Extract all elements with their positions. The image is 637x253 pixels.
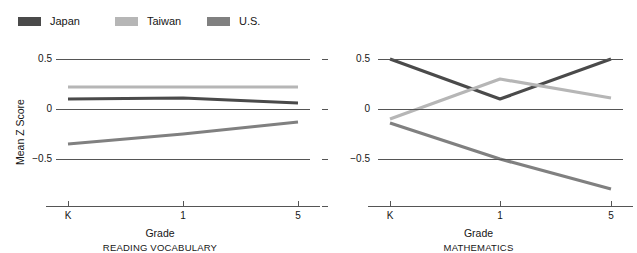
x-axis-tick-label: 1	[171, 211, 195, 221]
x-axis-tick-label: 5	[599, 211, 623, 221]
panel-caption-math: MATHEMATICS	[320, 242, 637, 253]
legend-label: Japan	[50, 16, 80, 27]
gridline	[378, 59, 623, 60]
x-axis-tick-mark	[298, 201, 299, 207]
y-axis-tick-mark	[322, 59, 328, 60]
y-axis-tick-label: −0.5	[350, 154, 370, 164]
legend-item-us: U.S.	[207, 12, 260, 30]
plot-area-math	[378, 34, 623, 184]
y-axis-tick-mark	[322, 109, 328, 110]
y-axis-tick-label: 0	[46, 104, 52, 114]
x-axis-tick-mark	[68, 201, 69, 207]
x-axis-tick-label: 5	[286, 211, 310, 221]
x-axis-tick-label: 1	[488, 211, 512, 221]
panel-mathematics: 0.50−0.5 K15 Grade MATHEMATICS	[320, 34, 637, 245]
gridline	[56, 109, 310, 110]
y-axis-tick-label: 0.5	[38, 54, 52, 64]
series-line-japan	[68, 98, 298, 103]
x-axis-tick-mark	[390, 201, 391, 207]
chart-legend: JapanTaiwanU.S.	[0, 12, 637, 30]
gridline	[378, 109, 623, 110]
y-axis-tick-label: 0.5	[356, 54, 370, 64]
x-axis-tick-mark	[183, 201, 184, 207]
series-line-us	[390, 123, 611, 189]
legend-item-taiwan: Taiwan	[115, 12, 181, 30]
gridline	[56, 59, 310, 60]
x-axis-tick-label: K	[378, 211, 402, 221]
legend-swatch-icon	[115, 17, 138, 26]
series-line-us	[68, 122, 298, 144]
x-axis-title-math: Grade	[320, 227, 637, 239]
legend-swatch-icon	[207, 17, 230, 26]
y-axis-tick-mark	[322, 206, 328, 207]
legend-item-japan: Japan	[18, 12, 80, 30]
x-axis-tick-label: K	[56, 211, 80, 221]
y-axis-tick-label: 0	[364, 104, 370, 114]
gridline	[56, 159, 310, 160]
y-axis-tick-labels-reading: 0.50−0.5	[22, 34, 52, 184]
y-axis-tick-mark	[322, 159, 328, 160]
y-axis-tick-label: −0.5	[32, 154, 52, 164]
x-axis-tick-mark	[611, 201, 612, 207]
panel-caption-reading: READING VOCABULARY	[0, 242, 320, 253]
y-axis-tick-labels-math: 0.50−0.5	[338, 34, 370, 184]
x-axis-tick-mark	[500, 201, 501, 207]
y-axis-tick-marks-math	[322, 34, 330, 206]
panel-reading-vocabulary: Mean Z Score 0.50−0.5 K15 Grade READING …	[0, 34, 320, 245]
plot-area-reading	[56, 34, 310, 184]
legend-label: U.S.	[239, 16, 260, 27]
gridline	[378, 159, 623, 160]
legend-label: Taiwan	[147, 16, 181, 27]
x-axis-title-reading: Grade	[0, 227, 320, 239]
legend-swatch-icon	[18, 17, 41, 26]
